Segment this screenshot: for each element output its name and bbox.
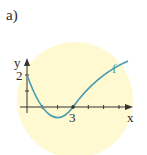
graph: y 2 3 x f: [0, 0, 147, 155]
y-axis-arrow-icon: [24, 58, 30, 66]
y-tick-label: 2: [16, 68, 23, 83]
x-tick-label: 3: [69, 110, 76, 125]
vertex-point: [71, 105, 75, 109]
x-axis-label: x: [127, 110, 134, 125]
curve-label: f: [112, 61, 117, 76]
background-circle: [17, 42, 133, 155]
